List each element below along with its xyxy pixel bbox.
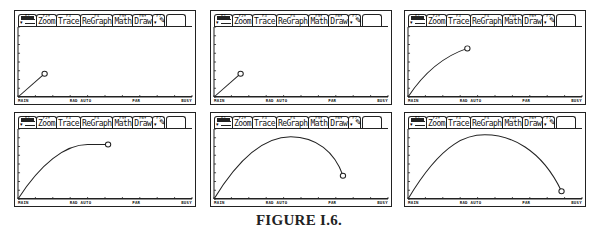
tab-label: Draw xyxy=(524,18,541,26)
fkey-label: F5▾ xyxy=(315,14,322,18)
status-busy: BUSY xyxy=(571,98,582,103)
tab-label: Draw xyxy=(134,18,151,26)
fkey-label: F4 xyxy=(94,116,99,120)
status-bar: MAIN RAD AUTO PAR BUSY xyxy=(18,96,192,104)
fkey-label: F3 xyxy=(66,14,71,18)
tab-label: Trace xyxy=(254,18,275,26)
tab-math[interactable]: F5▾ Math xyxy=(308,116,329,128)
fkey-label: F6▾ xyxy=(139,116,146,120)
tab-label: Zoom xyxy=(428,120,445,128)
projectile-path xyxy=(408,135,562,199)
status-busy: BUSY xyxy=(181,200,192,205)
status-busy: BUSY xyxy=(181,98,192,103)
tools-menu-tab[interactable]: F1 ▾ xyxy=(18,116,37,128)
dropdown-arrow-icon: ▾ xyxy=(20,20,23,25)
tab-trace[interactable]: F3 Trace xyxy=(56,14,81,26)
status-graph-mode: PAR xyxy=(328,98,336,103)
tab-zoom[interactable]: F2▾ Zoom xyxy=(426,14,447,26)
fkey-label: F6▾ xyxy=(139,14,146,18)
tab-trace[interactable]: F3 Trace xyxy=(446,14,471,26)
toolbar: F1 ▾ F2▾ Zoom F3 Trace F4 ReGraph F5▾ Ma… xyxy=(408,115,582,128)
tab-math[interactable]: F5▾ Math xyxy=(502,14,523,26)
tab-math[interactable]: F5▾ Math xyxy=(308,14,329,26)
graph-area[interactable] xyxy=(214,27,388,97)
status-bar: MAIN RAD AUTO PAR BUSY xyxy=(408,198,582,206)
fkey-label: F6▾ xyxy=(529,116,536,120)
status-bar: MAIN RAD AUTO PAR BUSY xyxy=(214,198,388,206)
tab-pencil[interactable]: F7 ▾ ✎ xyxy=(348,14,361,26)
tab-regraph[interactable]: F4 ReGraph xyxy=(276,14,310,26)
fkey-label: F3 xyxy=(262,116,267,120)
tab-zoom[interactable]: F2▾ Zoom xyxy=(232,14,253,26)
tab-pencil[interactable]: F7 ▾ ✎ xyxy=(348,116,361,128)
tools-menu-tab[interactable]: F1 ▾ xyxy=(214,14,233,26)
graph-area[interactable] xyxy=(408,27,582,97)
graph-area[interactable] xyxy=(214,129,388,199)
dropdown-arrow-icon: ▾ xyxy=(154,20,157,25)
tab-draw[interactable]: F6▾ Draw xyxy=(328,116,349,128)
tab-label: Math xyxy=(504,120,521,128)
calculator-screen-4: F1 ▾ F2▾ Zoom F3 Trace F4 ReGraph F5▾ Ma… xyxy=(14,112,196,207)
tab-label: Zoom xyxy=(38,120,55,128)
tab-zoom[interactable]: F2▾ Zoom xyxy=(232,116,253,128)
pencil-icon: ✎ xyxy=(355,119,362,127)
tab-pencil[interactable]: F7 ▾ ✎ xyxy=(152,14,165,26)
tab-trace[interactable]: F3 Trace xyxy=(56,116,81,128)
trace-cursor-icon xyxy=(238,71,243,76)
fkey-label: F4 xyxy=(94,14,99,18)
tab-regraph[interactable]: F4 ReGraph xyxy=(470,116,504,128)
tab-trace[interactable]: F3 Trace xyxy=(252,116,277,128)
tab-draw[interactable]: F6▾ Draw xyxy=(522,116,543,128)
tab-draw[interactable]: F6▾ Draw xyxy=(522,14,543,26)
tools-menu-tab[interactable]: F1 ▾ xyxy=(408,14,427,26)
tab-regraph[interactable]: F4 ReGraph xyxy=(276,116,310,128)
toolbar: F1 ▾ F2▾ Zoom F3 Trace F4 ReGraph F5▾ Ma… xyxy=(408,13,582,26)
tab-pencil[interactable]: F7 ▾ ✎ xyxy=(542,116,555,128)
status-angle: RAD AUTO xyxy=(70,98,92,103)
tab-math[interactable]: F5▾ Math xyxy=(112,116,133,128)
tab-zoom[interactable]: F2▾ Zoom xyxy=(36,116,57,128)
status-bar: MAIN RAD AUTO PAR BUSY xyxy=(214,96,388,104)
tab-trace[interactable]: F3 Trace xyxy=(446,116,471,128)
tab-draw[interactable]: F6▾ Draw xyxy=(328,14,349,26)
tab-empty xyxy=(556,116,576,128)
tab-draw[interactable]: F6▾ Draw xyxy=(132,116,153,128)
tab-pencil[interactable]: F7 ▾ ✎ xyxy=(542,14,555,26)
equals-icon xyxy=(25,121,35,126)
tools-menu-tab[interactable]: F1 ▾ xyxy=(18,14,37,26)
fkey-label: F3 xyxy=(456,14,461,18)
status-angle: RAD AUTO xyxy=(266,98,288,103)
tab-pencil[interactable]: F7 ▾ ✎ xyxy=(152,116,165,128)
tab-zoom[interactable]: F2▾ Zoom xyxy=(426,116,447,128)
graph-area[interactable] xyxy=(408,129,582,199)
trace-cursor-icon xyxy=(105,142,110,147)
tab-label: Draw xyxy=(134,120,151,128)
tab-math[interactable]: F5▾ Math xyxy=(112,14,133,26)
status-busy: BUSY xyxy=(377,200,388,205)
status-mode: MAIN xyxy=(18,98,29,103)
tab-math[interactable]: F5▾ Math xyxy=(502,116,523,128)
tab-empty xyxy=(166,14,186,26)
tab-label: Math xyxy=(114,18,131,26)
fkey-label: F4 xyxy=(484,14,489,18)
tab-label: ReGraph xyxy=(278,120,308,128)
tab-regraph[interactable]: F4 ReGraph xyxy=(470,14,504,26)
tab-trace[interactable]: F3 Trace xyxy=(252,14,277,26)
tab-regraph[interactable]: F4 ReGraph xyxy=(80,14,114,26)
tools-menu-tab[interactable]: F1 ▾ xyxy=(214,116,233,128)
fkey-label: F2▾ xyxy=(43,116,50,120)
graph-area[interactable] xyxy=(18,129,192,199)
tools-menu-tab[interactable]: F1 ▾ xyxy=(408,116,427,128)
calculator-screen-3: F1 ▾ F2▾ Zoom F3 Trace F4 ReGraph F5▾ Ma… xyxy=(404,10,586,105)
tab-zoom[interactable]: F2▾ Zoom xyxy=(36,14,57,26)
tab-draw[interactable]: F6▾ Draw xyxy=(132,14,153,26)
dropdown-arrow-icon: ▾ xyxy=(350,20,353,25)
tab-label: Draw xyxy=(330,18,347,26)
status-angle: RAD AUTO xyxy=(460,98,482,103)
dropdown-arrow-icon: ▾ xyxy=(20,122,23,127)
graph-area[interactable] xyxy=(18,27,192,97)
toolbar: F1 ▾ F2▾ Zoom F3 Trace F4 ReGraph F5▾ Ma… xyxy=(214,13,388,26)
tab-label: Zoom xyxy=(234,120,251,128)
tab-regraph[interactable]: F4 ReGraph xyxy=(80,116,114,128)
projectile-path xyxy=(18,74,45,97)
